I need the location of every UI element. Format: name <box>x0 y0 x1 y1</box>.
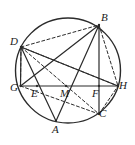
point-label-F: F <box>92 88 99 99</box>
point-label-H: H <box>119 80 127 91</box>
chord-GB <box>21 25 100 86</box>
point-label-A: A <box>52 124 59 135</box>
point-dot-B <box>98 24 100 26</box>
point-label-G: G <box>10 82 18 93</box>
point-label-E: E <box>31 88 38 99</box>
chord-DH <box>21 47 118 86</box>
point-label-C: C <box>99 108 106 119</box>
geometry-canvas <box>0 0 135 145</box>
point-dot-G <box>19 85 21 87</box>
chord-BH <box>99 25 118 86</box>
geometry-figure: B D G H A C E M F <box>0 0 135 145</box>
point-label-B: B <box>101 12 108 23</box>
point-label-M: M <box>60 88 69 99</box>
point-dot-A <box>55 120 57 122</box>
chord-DB <box>21 25 99 47</box>
point-dot-D <box>20 46 22 48</box>
chord-DG <box>21 47 22 86</box>
point-label-D: D <box>10 36 18 47</box>
chord-DC <box>21 47 99 114</box>
chord-DA <box>21 47 56 121</box>
